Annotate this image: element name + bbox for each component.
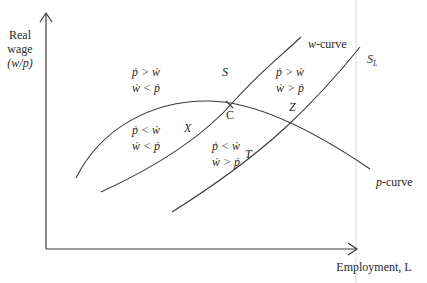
svg-text:ẇ > ṗ: ẇ > ṗ xyxy=(212,155,240,169)
x-axis-label: Employment, L xyxy=(336,260,411,274)
p-curve-label: p-curve xyxy=(375,175,413,189)
svg-text:ẇ > ṗ: ẇ > ṗ xyxy=(276,81,304,95)
svg-text:ẇ < ṗ: ẇ < ṗ xyxy=(132,81,160,95)
point-t-label: T xyxy=(245,147,253,161)
y-axis-label-line-2: wage xyxy=(7,42,32,56)
point-s-label: S xyxy=(222,65,228,79)
labour-supply-curve xyxy=(172,47,360,212)
svg-text:ṗ < ẇ: ṗ < ẇ xyxy=(211,139,240,153)
diagram-canvas: Real wage (w/p) Employment, L w-curve SL… xyxy=(0,0,427,283)
svg-text:ṗ > ẇ: ṗ > ẇ xyxy=(275,65,304,79)
svg-text:ṗ < ẇ: ṗ < ẇ xyxy=(131,123,160,137)
y-axis-label-line-3: (w/p) xyxy=(7,56,32,70)
svg-text:ẇ < ṗ: ẇ < ṗ xyxy=(132,139,160,153)
region-bottom-left: ṗ < ẇ ẇ < ṗ xyxy=(131,123,160,153)
y-axis-label-line-1: Real xyxy=(9,28,32,42)
point-x-label: X xyxy=(183,121,192,135)
region-top-right: ṗ > ẇ ẇ > ṗ xyxy=(275,65,304,95)
point-c-label: C xyxy=(226,108,234,122)
region-top-left: ṗ > ẇ ẇ < ṗ xyxy=(131,65,160,95)
s-l-label: SL xyxy=(367,52,378,68)
y-axis-label: Real wage (w/p) xyxy=(7,28,32,70)
region-bottom-right: ṗ < ẇ ẇ > ṗ xyxy=(211,139,240,169)
w-curve-label: w-curve xyxy=(308,37,347,51)
svg-text:ṗ > ẇ: ṗ > ẇ xyxy=(131,65,160,79)
point-z-label: Z xyxy=(289,100,296,114)
